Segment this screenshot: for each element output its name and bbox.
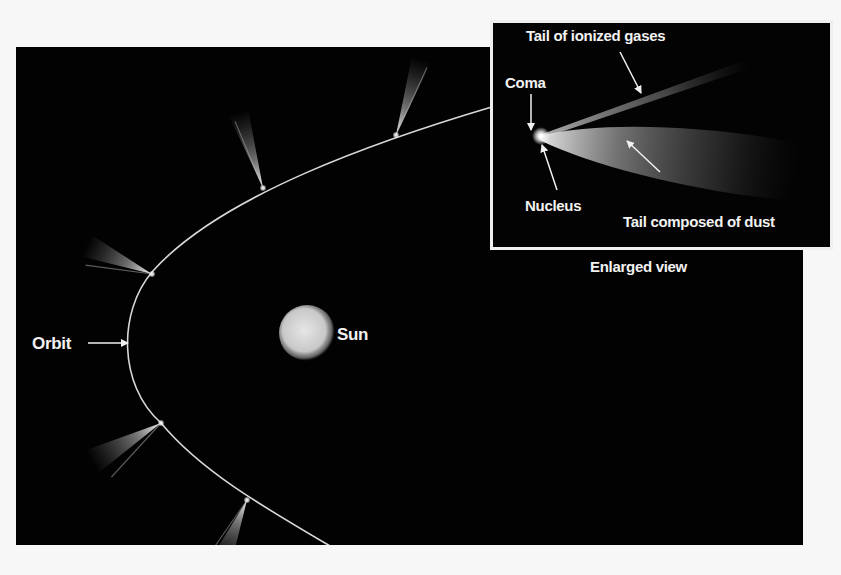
dust-tail-label: Tail composed of dust — [623, 213, 775, 230]
enlarged-view-graphics — [0, 0, 841, 575]
nucleus-icon — [539, 134, 544, 139]
nucleus-arrow — [542, 145, 557, 190]
ion-tail-label: Tail of ionized gases — [526, 27, 665, 44]
nucleus-label: Nucleus — [525, 197, 581, 214]
coma-label: Coma — [505, 74, 545, 91]
enlarged-view-caption: Enlarged view — [590, 258, 687, 275]
ion-tail-arrow — [620, 52, 641, 93]
